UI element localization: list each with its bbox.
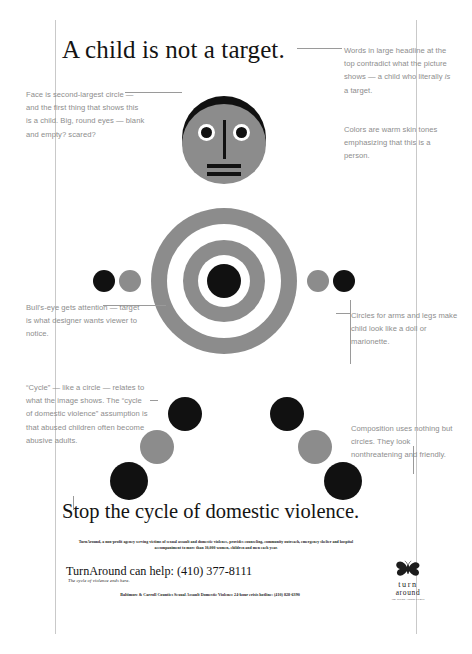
arm-circle-right-inner xyxy=(307,270,329,292)
closing-headline: Stop the cycle of domestic violence. xyxy=(62,500,359,523)
butterfly-icon xyxy=(395,560,421,578)
annotation-composition: Composition uses nothing but circles. Th… xyxy=(351,422,461,462)
nose-shape xyxy=(223,120,226,159)
logo-subtitle: The Sexual Assault Center xyxy=(386,597,430,602)
annotation-cycle: “Cycle” — like a circle — relates to wha… xyxy=(26,381,150,447)
leg-circle-left-1 xyxy=(168,397,202,431)
arm-circle-right-outer xyxy=(333,270,355,292)
arm-circle-left-outer xyxy=(93,270,115,292)
turnaround-logo: turn around The Sexual Assault Center xyxy=(386,560,430,602)
annotation-headline-italic: is xyxy=(445,72,451,81)
eye-right-pupil xyxy=(236,127,247,138)
logo-word-around: around xyxy=(386,589,430,597)
leader-line-arms xyxy=(336,313,350,314)
annotation-headline: Words in large headline at the top contr… xyxy=(344,44,456,97)
body-copy: TurnAround, a non-profit agency serving … xyxy=(66,539,366,551)
help-phone-line: TurnAround can help: (410) 377-8111 xyxy=(66,564,252,579)
leg-circle-right-1 xyxy=(270,397,304,431)
annotation-face: Face is second-largest circle — and the … xyxy=(26,88,146,141)
mouth-lower-bar xyxy=(207,172,241,176)
eye-left-pupil xyxy=(201,127,212,138)
leader-line-cycle xyxy=(150,400,158,401)
annotation-bullseye: Bull's-eye gets attention — target is wh… xyxy=(26,301,144,341)
crisis-hotline-line: Baltimore & Carroll Counties Sexual Assa… xyxy=(60,592,360,597)
leg-circle-right-3 xyxy=(324,462,362,500)
annotation-arms: Circles for arms and legs make child loo… xyxy=(351,309,461,349)
tagline: The cycle of violence ends here. xyxy=(68,578,130,583)
annotation-headline-part1: Words in large headline at the top contr… xyxy=(344,46,447,81)
poster-page: A child is not a target. Stop the cycle … xyxy=(0,0,472,654)
arm-circle-left-inner xyxy=(119,270,141,292)
page-title: A child is not a target. xyxy=(62,36,285,64)
mouth-upper-bar xyxy=(207,164,241,168)
leg-circle-right-2 xyxy=(298,430,332,464)
leader-line-closing xyxy=(73,496,74,510)
bullseye-center xyxy=(207,264,241,298)
leg-circle-left-3 xyxy=(110,462,148,500)
annotation-colors: Colors are warm skin tones emphasizing t… xyxy=(344,123,456,163)
annotation-headline-part2: a target. xyxy=(344,86,372,95)
leader-line-headline xyxy=(297,48,342,49)
